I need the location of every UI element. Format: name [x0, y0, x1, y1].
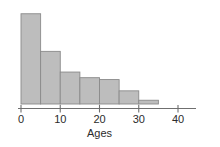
x-axis-title: Ages [87, 127, 113, 139]
histogram-bar [100, 80, 120, 104]
histogram-bar [139, 100, 159, 104]
histogram-bar [60, 72, 80, 104]
x-axis-tick-label: 30 [133, 113, 145, 125]
x-axis-tick-label: 0 [18, 113, 24, 125]
histogram-figure: 010203040 Ages [0, 0, 220, 147]
x-axis-tick-label: 40 [172, 113, 184, 125]
histogram-bar [119, 91, 139, 104]
histogram-bar [80, 78, 100, 104]
histogram-bar [21, 14, 41, 104]
x-axis-tick-label: 10 [54, 113, 66, 125]
histogram-bar [41, 51, 61, 104]
chart-canvas: 010203040 Ages [0, 0, 220, 147]
x-axis-tick-label: 20 [93, 113, 105, 125]
